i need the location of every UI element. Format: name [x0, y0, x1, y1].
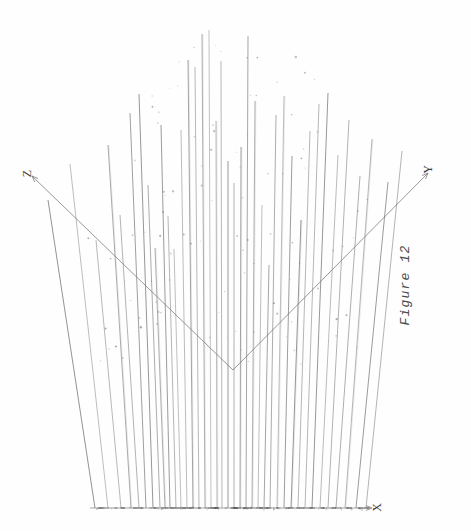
axis-lines-layer	[32, 173, 428, 370]
axis-label-z: Z	[20, 170, 35, 177]
axis-label-y: Y	[421, 165, 436, 174]
figure-caption: Figure 12	[398, 230, 413, 340]
figure-page: Z Y X Figure 12	[0, 0, 471, 531]
stem-lines-layer	[48, 30, 402, 508]
axis-arrowheads-layer	[32, 173, 428, 510]
axis-label-x: X	[370, 503, 385, 512]
